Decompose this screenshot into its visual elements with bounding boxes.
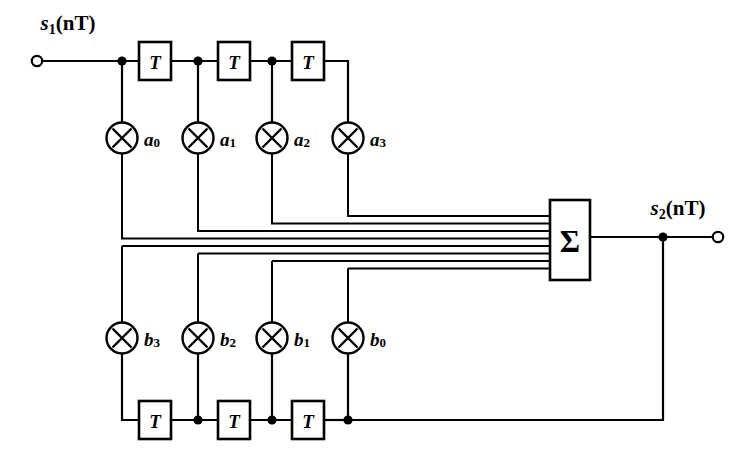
bus-line-a1 (198, 154, 550, 231)
top-link-wire-3 (324, 61, 348, 122)
top-delay-label-2: T (228, 52, 241, 73)
multiplier-a2: a2 (257, 123, 311, 154)
bus-line-a2 (272, 154, 550, 224)
multiplier-a1: a1 (183, 123, 237, 154)
coefficient-label-a0: a0 (144, 129, 160, 151)
filter-diagram: T T T a0 a1 (0, 0, 741, 464)
coefficient-label-b0: b0 (370, 329, 386, 351)
summation-block: Σ (550, 200, 590, 280)
tap-wire-b3 (122, 354, 139, 420)
multiplier-a0: a0 (107, 123, 161, 154)
feedback-return-path (348, 237, 663, 420)
coefficient-label-a1: a1 (220, 129, 236, 151)
coefficient-label-a2: a2 (294, 129, 310, 151)
multiplier-b2: b2 (183, 323, 237, 354)
feedback-bus (122, 246, 550, 322)
bottom-delay-label-3: T (302, 411, 315, 432)
bottom-delay-chain: T T T (139, 401, 353, 439)
multiplier-b3: b3 (107, 323, 161, 354)
output-group (590, 232, 723, 242)
bottom-tap-node-3 (343, 415, 352, 424)
output-terminal-circle (713, 232, 723, 242)
multiplier-b1: b1 (257, 323, 311, 354)
summer-sigma-label: Σ (560, 224, 580, 259)
coefficient-label-b2: b2 (220, 329, 236, 351)
feedforward-bus (122, 154, 550, 239)
bus-line-a3 (348, 154, 550, 216)
top-delay-label-1: T (149, 52, 162, 73)
multiplier-b0: b0 (333, 323, 387, 354)
output-signal-label: s2(nT) (650, 196, 706, 222)
multiplier-a3: a3 (333, 123, 387, 154)
coefficient-label-a3: a3 (370, 129, 387, 151)
bottom-tap-node-2 (267, 415, 276, 424)
coefficient-label-b1: b1 (294, 329, 310, 351)
input-terminal-circle (32, 56, 42, 66)
coefficient-label-b3: b3 (144, 329, 161, 351)
bottom-tap-node-1 (193, 415, 202, 424)
bus-line-a0 (122, 154, 550, 239)
top-delay-chain: T T T (139, 42, 348, 122)
input-signal-label: s1(nT) (40, 11, 96, 37)
diagram-canvas: T T T a0 a1 (0, 0, 741, 464)
bottom-delay-label-2: T (228, 411, 241, 432)
top-delay-label-3: T (302, 52, 315, 73)
feedback-return-wire (348, 237, 663, 420)
bottom-delay-label-1: T (149, 411, 162, 432)
